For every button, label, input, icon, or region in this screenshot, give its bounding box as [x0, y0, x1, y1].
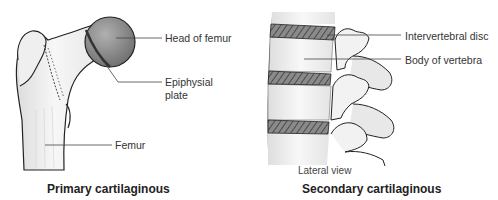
intervertebral-disc-2 [268, 71, 331, 85]
label-body-of-vertebra: Body of vertebra [405, 54, 482, 66]
lateral-view-label: Lateral view [298, 165, 351, 176]
vertebra-body-2 [269, 37, 333, 72]
label-plate: plate [165, 89, 188, 101]
intervertebral-disc-3 [268, 120, 329, 134]
caption-primary: Primary cartilaginous [47, 182, 170, 196]
vertebra-body-3 [268, 84, 331, 120]
femur-illustration [0, 0, 249, 200]
label-head-of-femur: Head of femur [165, 32, 232, 44]
vertebra-body-4 [268, 133, 329, 165]
primary-cartilaginous-figure: Head of femur Epiphysial plate Femur Pri… [0, 0, 249, 200]
label-femur: Femur [115, 139, 145, 151]
caption-secondary: Secondary cartilaginous [302, 182, 441, 196]
label-intervertebral-disc: Intervertebral disc [405, 30, 488, 42]
intervertebral-disc-1 [270, 24, 335, 40]
vertebra-body-1 [271, 12, 335, 24]
secondary-cartilaginous-figure: Intervertebral disc Body of vertebra Lat… [249, 0, 498, 200]
label-epiphysial: Epiphysial [165, 76, 213, 88]
